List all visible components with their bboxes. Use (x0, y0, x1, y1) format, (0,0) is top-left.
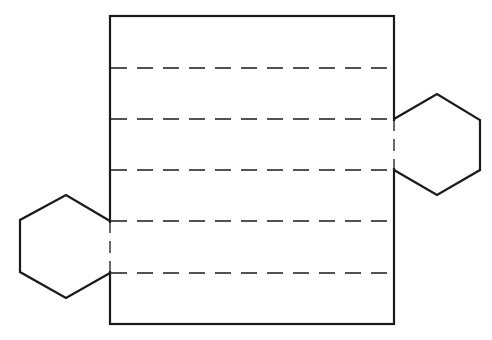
net-svg (0, 0, 492, 340)
fold-lines (111, 68, 393, 273)
hexagon-bases (20, 94, 480, 298)
left-hexagon (20, 195, 110, 298)
right-hexagon (394, 94, 480, 195)
prism-net-diagram (0, 0, 492, 340)
